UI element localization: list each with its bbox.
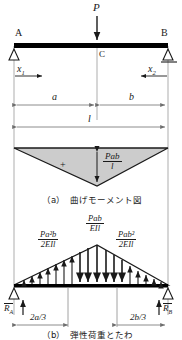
dimension-lines: [17, 105, 165, 127]
node-label-C: C: [99, 50, 105, 59]
caption-a: （a） 曲げモーメント図: [42, 196, 142, 205]
support-pin-left: [9, 49, 19, 60]
node-label-B: B: [161, 28, 168, 38]
lower-dimension-label-right: 2b/3: [130, 313, 146, 322]
coordinate-label-x2: x2: [148, 64, 156, 74]
support-roller-right-lower: [163, 288, 173, 299]
moment-peak-formula: Pab l: [103, 152, 122, 172]
support-pin-left-lower: [9, 288, 19, 299]
reaction-label-RA: RA: [4, 303, 13, 313]
bending-moment-triangle: [14, 148, 168, 186]
dimension-label-l: l: [88, 114, 91, 124]
elastic-load-formula-right: Pab² 2EIl: [116, 230, 136, 249]
coordinate-label-x1: x1: [17, 64, 25, 74]
lower-dimension-label-left: 2a/3: [30, 313, 46, 322]
elastic-load-formula-center: Pab EIl: [86, 214, 104, 233]
beam-member: [14, 43, 168, 48]
dimension-label-a: a: [52, 92, 57, 102]
moment-sign-plus: +: [60, 160, 66, 170]
dimension-label-b: b: [129, 92, 134, 102]
elastic-load-arrows-right: [130, 266, 161, 284]
node-label-A: A: [15, 28, 22, 38]
load-label-P: P: [93, 2, 100, 13]
elastic-load-triangle: [14, 245, 168, 288]
caption-b: （b） 弾性荷重とたわ: [42, 331, 133, 340]
reaction-label-RB: RB: [163, 303, 172, 313]
elastic-load-formula-left: Pa²b 2EIl: [38, 230, 58, 249]
support-roller-right: [161, 49, 177, 62]
